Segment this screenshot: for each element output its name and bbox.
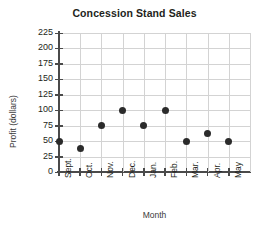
x-axis-title: Month	[59, 210, 250, 220]
gridline-vertical	[208, 33, 209, 172]
data-point	[77, 145, 84, 152]
gridline-horizontal	[59, 33, 250, 34]
data-point	[56, 138, 63, 145]
gridline-vertical	[250, 33, 251, 172]
x-axis-tick-label: Mar.	[190, 161, 200, 178]
data-point	[119, 107, 126, 114]
x-axis-tick-label: Jan.	[148, 162, 158, 178]
gridline-vertical	[144, 33, 145, 172]
x-axis-tick	[101, 168, 103, 176]
y-axis-tick	[55, 48, 63, 50]
y-axis-tick-label: 150	[7, 73, 53, 83]
chart-container: Concession Stand Sales Profit (dollars) …	[0, 0, 269, 235]
y-axis-tick	[55, 156, 63, 158]
x-axis-tick-label: Nov.	[105, 161, 115, 178]
x-axis-tick	[228, 168, 230, 176]
y-axis-tick-label: 175	[7, 58, 53, 68]
gridline-horizontal	[59, 126, 250, 127]
y-axis-tick	[55, 110, 63, 112]
data-point	[98, 122, 105, 129]
gridline-vertical	[123, 33, 124, 172]
data-point	[162, 107, 169, 114]
y-axis-tick-label: 100	[7, 104, 53, 114]
x-axis-tick-label: May	[233, 162, 243, 178]
x-axis-tick	[164, 168, 166, 176]
x-axis-tick-label: Apr.	[212, 163, 222, 178]
gridline-horizontal	[59, 110, 250, 111]
plot-area	[59, 33, 250, 172]
gridline-horizontal	[59, 95, 250, 96]
data-point	[204, 130, 211, 137]
y-axis-tick-label: 125	[7, 89, 53, 99]
y-axis-tick	[55, 125, 63, 127]
x-axis-tick	[143, 168, 145, 176]
gridline-horizontal	[59, 157, 250, 158]
x-axis-tick-label: Oct.	[84, 162, 94, 178]
y-axis-tick	[55, 63, 63, 65]
data-point	[140, 122, 147, 129]
data-point	[183, 138, 190, 145]
gridline-horizontal	[59, 48, 250, 49]
x-axis-tick-label: Feb.	[169, 161, 179, 178]
x-axis-tick	[58, 168, 60, 176]
gridline-horizontal	[59, 79, 250, 80]
gridline-vertical	[229, 33, 230, 172]
y-axis-tick	[55, 94, 63, 96]
y-axis-tick-label: 0	[7, 166, 53, 176]
gridline-vertical	[101, 33, 102, 172]
data-point	[225, 138, 232, 145]
chart-title: Concession Stand Sales	[0, 7, 269, 19]
gridline-vertical	[165, 33, 166, 172]
x-axis-tick	[186, 168, 188, 176]
y-axis-tick-label: 75	[7, 120, 53, 130]
y-axis-tick	[55, 79, 63, 81]
y-axis-tick-label: 200	[7, 42, 53, 52]
x-axis-tick-label: Sept.	[63, 158, 73, 178]
y-axis-line	[58, 31, 60, 174]
gridline-horizontal	[59, 64, 250, 65]
y-axis-tick-label: 50	[7, 135, 53, 145]
x-axis-tick	[207, 168, 209, 176]
x-axis-tick-label: Dec.	[127, 161, 137, 178]
y-axis-tick	[55, 33, 63, 35]
x-axis-tick	[122, 168, 124, 176]
gridline-horizontal	[59, 141, 250, 142]
x-axis-tick	[79, 168, 81, 176]
y-axis-tick-label: 225	[7, 27, 53, 37]
gridline-vertical	[186, 33, 187, 172]
y-axis-tick-label: 25	[7, 151, 53, 161]
